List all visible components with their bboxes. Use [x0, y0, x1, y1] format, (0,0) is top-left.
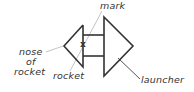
rocket-label: rocket	[53, 71, 84, 81]
launcher-leader-line	[118, 58, 140, 79]
nose-leader-line	[46, 46, 63, 52]
mark-label: mark	[100, 1, 125, 11]
launcher-label: launcher	[141, 75, 184, 85]
launcher-shape	[104, 17, 133, 76]
rocket-launcher-diagram: x mark nose of rocket rocket launcher	[0, 0, 194, 92]
x-mark: x	[80, 39, 86, 49]
nose-label-line3: rocket	[14, 67, 45, 77]
